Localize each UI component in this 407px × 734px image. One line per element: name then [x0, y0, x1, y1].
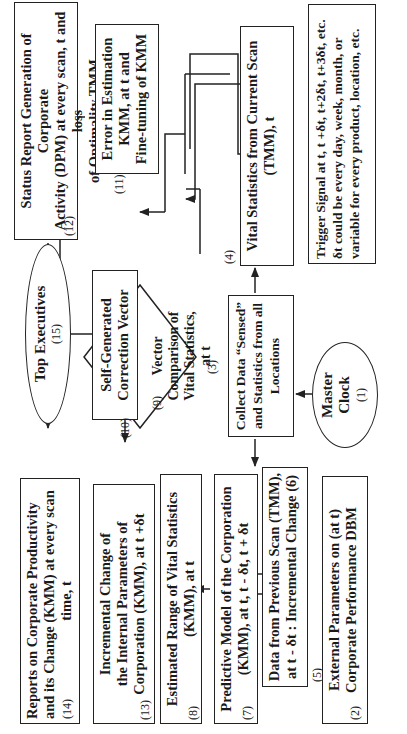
node-1-line1: Master [319, 343, 336, 447]
node-9-number: (9) [150, 396, 165, 410]
node-5-previous-scan: Data from Previous Scan (TMM), at t - δt… [262, 467, 308, 687]
node-13-line1: Incremental Change of [97, 489, 114, 719]
node-12-line1: Status Report Generation of Corporate [18, 7, 52, 235]
node-5-line1: Data from Previous Scan (TMM), [266, 472, 283, 682]
node-15-label: Top Executives [32, 245, 49, 423]
node-3-line3: Locations [266, 300, 283, 432]
node-4-line1: Vital Statistics from Current Scan [244, 31, 261, 261]
node-9-line3: Vital Statistics, [182, 296, 198, 416]
node-11-error-estimation: Error in Estimation KMM, at t and Fine-t… [95, 24, 159, 174]
node-14-number: (14) [60, 699, 75, 719]
node-10-line1: Self-Generated [98, 275, 115, 415]
node-14-line1: Reports on Corporate Productivity [24, 483, 41, 719]
node-13-number: (13) [138, 700, 153, 720]
node-1-line2: Clock [336, 343, 353, 447]
node-14-reports: Reports on Corporate Productivity and it… [20, 478, 80, 724]
node-8-estimated-range: Estimated Range of Vital Statistics (KMM… [160, 474, 202, 724]
node-12-number: (12) [62, 216, 77, 236]
node-1-master-clock: Master Clock (1) [312, 342, 378, 448]
node-10-number: (10) [118, 418, 133, 438]
trigger-note-line3: variable for every product, location, et… [346, 9, 363, 259]
node-8-line2: (KMM), at t [181, 479, 198, 719]
node-15-top-executives: Top Executives (15) [25, 244, 71, 424]
node-10-correction-vector: Self-Generated Correction Vector [92, 270, 138, 420]
node-3-collect-data: Collect Data “Sensed” and Statistics fro… [228, 295, 294, 437]
node-2-external-parameters: External Parameters on (at t) Corporate … [322, 476, 368, 724]
trigger-note: Trigger Signal at t, t +δt, t+2δt, t+3δt… [308, 4, 376, 264]
node-2-number: (2) [348, 706, 363, 720]
node-5-line2: at t - δt : Incremental Change (6) [283, 472, 300, 682]
node-4-vital-statistics: Vital Statistics from Current Scan (TMM)… [240, 26, 294, 266]
node-4-number: (4) [222, 250, 237, 264]
node-11-line2: KMM, at t and [116, 29, 133, 169]
node-15-number: (15) [49, 245, 64, 423]
node-4-line2: (TMM), t [261, 31, 278, 261]
trigger-note-line1: Trigger Signal at t, t +δt, t+2δt, t+3δt… [312, 9, 329, 259]
node-3-line1: Collect Data “Sensed” [232, 300, 249, 432]
flow-diagram: Reports on Corporate Productivity and it… [0, 0, 407, 734]
node-8-line1: Estimated Range of Vital Statistics [164, 479, 181, 719]
node-3-number: (3) [205, 360, 220, 374]
node-11-line1: Error in Estimation [99, 29, 116, 169]
node-9-line2: Comparison of [166, 296, 182, 416]
node-14-line2: and its Change (KMM) at every scan [41, 483, 58, 719]
node-14-line3: time, t [58, 483, 75, 719]
node-12-line2: Activity (DPM) at every scan, t and loss [52, 7, 86, 235]
node-13-incremental-change: Incremental Change of the Internal Param… [93, 484, 155, 724]
node-7-line1: Predictive Model of the Corporation [218, 479, 235, 719]
node-13-line2: the Internal Parameters of [114, 489, 131, 719]
node-1-number: (1) [353, 343, 370, 447]
node-10-line2: Correction Vector [115, 275, 132, 415]
node-2-line2: Corporate Performance DBM [343, 481, 360, 719]
node-11-number: (11) [112, 174, 127, 194]
node-13-line3: Corporation (KMM), at t +δt [131, 489, 148, 719]
node-9-line4: at t [198, 296, 214, 416]
node-12-status-report: Status Report Generation of Corporate Ac… [14, 2, 78, 240]
node-2-line1: External Parameters on (at t) [326, 481, 343, 719]
node-8-number: (8) [186, 706, 201, 720]
trigger-note-line2: δt could be every day, week, month, or [329, 9, 346, 259]
node-3-line2: and Statistics from all [249, 300, 266, 432]
node-7-line2: (KMM), at t, t - δt, t + δt [235, 479, 252, 719]
node-11-line3: Fine-tuning of KMM [133, 29, 150, 169]
node-7-number: (7) [240, 706, 255, 720]
node-7-predictive-model: Predictive Model of the Corporation (KMM… [214, 474, 258, 724]
